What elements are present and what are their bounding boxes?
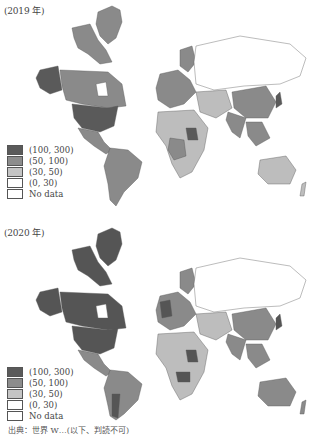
new-zealand — [300, 400, 306, 414]
source-caption: 出典：世界 W…(以下、判読不可) — [8, 424, 129, 435]
legend-label: (100, 300) — [29, 145, 73, 156]
africa-dark-cluster — [186, 350, 198, 362]
europe-region — [156, 70, 196, 108]
greenland-region — [96, 228, 122, 266]
india-region — [226, 334, 246, 360]
legend-label: (50, 100) — [29, 378, 68, 389]
legend-swatch — [7, 411, 23, 421]
india-region — [226, 112, 246, 138]
legend-swatch — [7, 189, 23, 199]
scandinavia — [180, 46, 196, 72]
africa-south-dark — [176, 372, 190, 382]
hudson-bay — [96, 82, 108, 96]
africa-dark-cluster — [186, 128, 198, 140]
legend-label: (30, 50) — [29, 389, 63, 400]
legend-label: (0, 30) — [29, 178, 57, 189]
japan-region — [276, 314, 282, 330]
russia-region — [194, 258, 306, 312]
map-legend-2020: (100, 300) (50, 100) (30, 50) (0, 30) No… — [7, 367, 73, 422]
africa-region — [156, 332, 208, 400]
legend-label: (100, 300) — [29, 367, 73, 378]
legend-item: (50, 100) — [7, 156, 73, 167]
legend-item: (0, 30) — [7, 400, 73, 411]
legend-swatch — [7, 400, 23, 410]
legend-swatch — [7, 156, 23, 166]
south-america-region — [104, 148, 142, 206]
japan-region — [276, 92, 282, 108]
china-region — [232, 86, 276, 118]
map-panel-2020: (2020 年) (100, 3 — [0, 222, 317, 422]
south-america-region — [104, 370, 142, 420]
australia-region — [258, 378, 296, 406]
australia-region — [258, 156, 296, 184]
mexico-region — [78, 350, 112, 376]
hudson-bay — [96, 304, 108, 318]
usa-region — [72, 104, 118, 132]
legend-item: (0, 30) — [7, 178, 73, 189]
se-asia-region — [246, 122, 270, 146]
map-legend-2019: (100, 300) (50, 100) (30, 50) (0, 30) No… — [7, 145, 73, 200]
legend-item: (30, 50) — [7, 389, 73, 400]
legend-swatch — [7, 167, 23, 177]
alaska-region — [36, 66, 62, 94]
legend-label: (50, 100) — [29, 156, 68, 167]
legend-label: No data — [29, 189, 63, 200]
legend-label: (0, 30) — [29, 400, 57, 411]
se-asia-region — [246, 344, 270, 368]
alaska-region — [36, 288, 62, 316]
canada-region — [60, 70, 126, 108]
middle-east-region — [196, 90, 232, 118]
legend-label: (30, 50) — [29, 167, 63, 178]
greenland-region — [96, 6, 122, 44]
legend-item: (30, 50) — [7, 167, 73, 178]
legend-item: (100, 300) — [7, 145, 73, 156]
legend-swatch — [7, 378, 23, 388]
scandinavia — [180, 268, 196, 294]
mexico-region — [78, 128, 112, 154]
europe-dark-cluster — [160, 300, 172, 318]
russia-region — [194, 36, 306, 90]
map-panel-2019: (2019 年) — [0, 0, 317, 215]
middle-east-region — [196, 312, 232, 340]
legend-swatch — [7, 389, 23, 399]
legend-item: (50, 100) — [7, 378, 73, 389]
legend-swatch — [7, 178, 23, 188]
legend-item: No data — [7, 189, 73, 200]
usa-region — [72, 326, 118, 354]
legend-label: No data — [29, 411, 63, 422]
legend-item: (100, 300) — [7, 367, 73, 378]
legend-item: No data — [7, 411, 73, 422]
china-region — [232, 308, 276, 340]
legend-swatch — [7, 367, 23, 377]
canada-region — [60, 292, 126, 330]
legend-swatch — [7, 145, 23, 155]
new-zealand — [300, 182, 306, 196]
